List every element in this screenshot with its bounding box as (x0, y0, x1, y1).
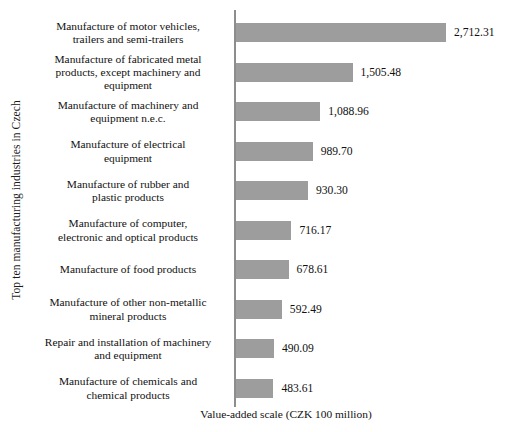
bar-track: 678.61 (236, 250, 516, 290)
bar-value-label: 490.09 (282, 340, 314, 357)
category-label-line: Manufacture of other non-metallic (32, 296, 224, 309)
bar-track: 592.49 (236, 290, 516, 330)
bar-row: Manufacture of electricalequipment989.70 (32, 132, 516, 172)
bar-value-label: 716.17 (299, 222, 331, 239)
bar-row: Manufacture of food products678.61 (32, 250, 516, 290)
bar-row: Manufacture of machinery andequipment n.… (32, 92, 516, 132)
category-label-line: Manufacture of machinery and (32, 99, 224, 112)
bar[interactable] (236, 379, 273, 398)
category-label-line: equipment (32, 152, 224, 165)
category-label: Manufacture of electricalequipment (32, 132, 228, 172)
category-label-line: products, except machinery and (32, 66, 224, 79)
category-label-line: Manufacture of computer, (32, 217, 224, 230)
bar-track: 716.17 (236, 211, 516, 251)
category-label-line: Manufacture of motor vehicles, (32, 20, 224, 33)
category-label-line: plastic products (32, 191, 224, 204)
bar-row: Manufacture of fabricated metalproducts,… (32, 53, 516, 93)
bar[interactable] (236, 300, 282, 319)
category-label-line: Manufacture of chemicals and (32, 375, 224, 388)
category-label-line: mineral products (32, 310, 224, 323)
bar[interactable] (236, 339, 274, 358)
category-label: Manufacture of motor vehicles,trailers a… (32, 13, 228, 53)
bar-track: 2,712.31 (236, 13, 516, 53)
bar[interactable] (236, 221, 291, 240)
category-label-line: Manufacture of electrical (32, 138, 224, 151)
bar-track: 490.09 (236, 329, 516, 369)
bar-value-label: 678.61 (297, 261, 329, 278)
category-label-text: Manufacture of electricalequipment (32, 138, 224, 164)
bar-value-label: 989.70 (321, 143, 353, 160)
bar[interactable] (236, 102, 320, 121)
category-label: Manufacture of food products (32, 250, 228, 290)
category-label-text: Manufacture of machinery andequipment n.… (32, 99, 224, 125)
y-axis-title-text: Top ten manufacturing industries in Czec… (10, 100, 22, 300)
bar-row: Manufacture of other non-metallicmineral… (32, 290, 516, 330)
bar-track: 1,088.96 (236, 92, 516, 132)
category-label-line: Manufacture of food products (32, 263, 224, 276)
x-axis-title: Value-added scale (CZK 100 million) (0, 408, 516, 420)
bar-value-label: 1,505.48 (361, 64, 402, 81)
category-label: Manufacture of other non-metallicmineral… (32, 290, 228, 330)
category-label-text: Manufacture of rubber andplastic product… (32, 178, 224, 204)
category-label-text: Manufacture of chemicals andchemical pro… (32, 375, 224, 401)
bar-track: 483.61 (236, 369, 516, 409)
bar[interactable] (236, 142, 313, 161)
bar-chart: Top ten manufacturing industries in Czec… (0, 0, 516, 432)
category-label-text: Manufacture of food products (32, 263, 224, 276)
bar[interactable] (236, 63, 353, 82)
category-label-text: Manufacture of other non-metallicmineral… (32, 296, 224, 322)
category-label-text: Manufacture of motor vehicles,trailers a… (32, 20, 224, 46)
category-label: Manufacture of chemicals andchemical pro… (32, 369, 228, 409)
bar[interactable] (236, 23, 446, 42)
category-label-line: Manufacture of rubber and (32, 178, 224, 191)
bar[interactable] (236, 260, 289, 279)
category-label-text: Manufacture of fabricated metalproducts,… (32, 53, 224, 93)
bar-value-label: 930.30 (316, 182, 348, 199)
bar-row: Manufacture of chemicals andchemical pro… (32, 369, 516, 409)
x-axis-title-text: Value-added scale (CZK 100 million) (144, 408, 371, 420)
category-label: Repair and installation of machineryand … (32, 329, 228, 369)
bar-value-label: 2,712.31 (454, 24, 495, 41)
bar-value-label: 592.49 (290, 301, 322, 318)
category-label: Manufacture of computer,electronic and o… (32, 211, 228, 251)
category-label-line: equipment n.e.c. (32, 112, 224, 125)
category-label-text: Repair and installation of machineryand … (32, 336, 224, 362)
category-label-line: equipment (32, 79, 224, 92)
category-label-line: trailers and semi-trailers (32, 33, 224, 46)
bar-row: Repair and installation of machineryand … (32, 329, 516, 369)
category-label-line: electronic and optical products (32, 231, 224, 244)
bar-row: Manufacture of computer,electronic and o… (32, 211, 516, 251)
category-label-text: Manufacture of computer,electronic and o… (32, 217, 224, 243)
bar-value-label: 1,088.96 (328, 103, 369, 120)
bar-track: 1,505.48 (236, 53, 516, 93)
category-label-line: and equipment (32, 349, 224, 362)
category-label: Manufacture of machinery andequipment n.… (32, 92, 228, 132)
y-axis-title: Top ten manufacturing industries in Czec… (0, 0, 32, 400)
plot-area: Manufacture of motor vehicles,trailers a… (32, 8, 516, 408)
category-label: Manufacture of rubber andplastic product… (32, 171, 228, 211)
category-label-line: chemical products (32, 389, 224, 402)
bar-rows: Manufacture of motor vehicles,trailers a… (32, 8, 516, 408)
bar-track: 930.30 (236, 171, 516, 211)
category-label-line: Manufacture of fabricated metal (32, 53, 224, 66)
bar-value-label: 483.61 (281, 380, 313, 397)
category-label-line: Repair and installation of machinery (32, 336, 224, 349)
bar-track: 989.70 (236, 132, 516, 172)
bar-row: Manufacture of motor vehicles,trailers a… (32, 13, 516, 53)
bar-row: Manufacture of rubber andplastic product… (32, 171, 516, 211)
category-label: Manufacture of fabricated metalproducts,… (32, 53, 228, 93)
bar[interactable] (236, 181, 308, 200)
